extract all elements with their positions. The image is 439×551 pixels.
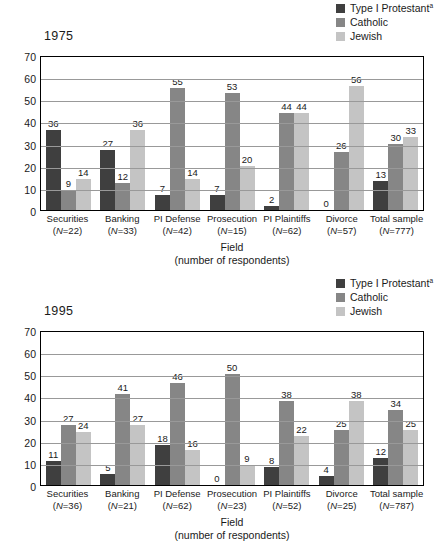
bar-type-i-protestant[interactable] xyxy=(319,476,334,485)
bar-catholic[interactable] xyxy=(170,88,185,210)
plot-area-1975: 3691427123675514753202444402656133033 01… xyxy=(40,56,424,211)
bar-catholic[interactable] xyxy=(61,190,76,210)
x-axis-labels-1975: Securities(N=22)Banking(N=33)PI Defense(… xyxy=(40,213,424,237)
x-axis-category-label: PI Plaintiffs(N=62) xyxy=(259,213,314,237)
y-axis-tick-label: 70 xyxy=(24,51,36,63)
x-axis-category-label: Banking(N=21) xyxy=(95,488,150,512)
legend-item-type-i-protestant[interactable]: Type I Protestanta xyxy=(336,277,433,290)
gridline xyxy=(41,465,423,466)
y-axis-tick-label: 60 xyxy=(24,348,36,360)
legend-item-jewish[interactable]: Jewish xyxy=(336,30,433,43)
legend-item-type-i-protestant[interactable]: Type I Protestanta xyxy=(336,2,433,15)
legend-swatch-protestant xyxy=(336,4,345,13)
bar-jewish[interactable] xyxy=(240,166,255,210)
y-axis-tick-label: 0 xyxy=(30,481,36,493)
bar-type-i-protestant[interactable] xyxy=(46,130,61,210)
x-axis-category-count: (N=62) xyxy=(259,225,314,237)
legend-1975: Type I ProtestantaCatholicJewish xyxy=(336,2,433,43)
bar-jewish[interactable] xyxy=(403,137,418,210)
x-axis-category-name: PI Defense xyxy=(154,488,201,499)
gridline xyxy=(41,376,423,377)
bar-jewish[interactable] xyxy=(76,432,91,485)
x-axis-category-label: Securities(N=22) xyxy=(40,213,95,237)
bar-value-label: 24 xyxy=(78,421,89,431)
bar-jewish[interactable] xyxy=(130,425,145,485)
bar-catholic[interactable] xyxy=(388,144,403,210)
bar-catholic[interactable] xyxy=(225,374,240,485)
legend-swatch-jewish xyxy=(336,32,345,41)
bar-type-i-protestant[interactable] xyxy=(155,195,170,211)
bar-catholic[interactable] xyxy=(334,430,349,485)
bar-value-label: 12 xyxy=(375,447,386,457)
x-axis-title-1975: Field (number of respondents) xyxy=(40,241,424,266)
x-axis-labels-1995: Securities(N=36)Banking(N=21)PI Defense(… xyxy=(40,488,424,512)
bar-jewish[interactable] xyxy=(130,130,145,210)
bar-catholic[interactable] xyxy=(115,183,130,210)
x-axis-title-line1: Field xyxy=(221,241,244,253)
bar-jewish[interactable] xyxy=(240,465,255,485)
bar-value-label: 0 xyxy=(214,474,219,484)
x-axis-category-count: (N=23) xyxy=(205,500,260,512)
y-axis-tick-label: 40 xyxy=(24,392,36,404)
bar-catholic[interactable] xyxy=(61,425,76,485)
bar-type-i-protestant[interactable] xyxy=(100,474,115,485)
bar-catholic[interactable] xyxy=(225,93,240,210)
x-axis-category-label: Divorce(N=25) xyxy=(314,488,369,512)
x-axis-category-label: PI Defense(N=62) xyxy=(150,488,205,512)
legend-label: Type I Protestanta xyxy=(350,277,433,290)
chart-title-1995: 1995 xyxy=(44,304,73,318)
chart-panel-1995: Type I ProtestantaCatholicJewish 1995 11… xyxy=(0,275,439,550)
x-axis-category-count: (N=22) xyxy=(40,225,95,237)
y-axis-tick-label: 0 xyxy=(30,206,36,218)
bar-catholic[interactable] xyxy=(115,394,130,485)
bar-jewish[interactable] xyxy=(403,430,418,485)
legend-item-jewish[interactable]: Jewish xyxy=(336,305,433,318)
bar-value-label: 30 xyxy=(390,133,401,143)
x-axis-category-label: PI Plaintiffs(N=52) xyxy=(259,488,314,512)
bar-catholic[interactable] xyxy=(279,113,294,210)
legend-swatch-protestant xyxy=(336,279,345,288)
bar-type-i-protestant[interactable] xyxy=(210,195,225,211)
x-axis-category-count: (N=777) xyxy=(369,225,424,237)
x-axis-category-name: Prosecution xyxy=(207,488,257,499)
bar-jewish[interactable] xyxy=(185,450,200,485)
legend-1995: Type I ProtestantaCatholicJewish xyxy=(336,277,433,318)
x-axis-category-name: Securities xyxy=(47,213,89,224)
bar-jewish[interactable] xyxy=(76,179,91,210)
bar-jewish[interactable] xyxy=(294,113,309,210)
y-axis-tick-label: 60 xyxy=(24,73,36,85)
bar-catholic[interactable] xyxy=(334,152,349,210)
y-axis-tick-label: 20 xyxy=(24,162,36,174)
x-axis-category-count: (N=52) xyxy=(259,500,314,512)
legend-item-catholic[interactable]: Catholic xyxy=(336,16,433,29)
legend-label: Catholic xyxy=(350,16,388,29)
legend-swatch-jewish xyxy=(336,307,345,316)
x-axis-category-name: PI Plaintiffs xyxy=(263,488,310,499)
bar-jewish[interactable] xyxy=(349,86,364,210)
bar-value-label: 53 xyxy=(227,82,238,92)
legend-label: Jewish xyxy=(350,30,382,43)
gridline xyxy=(41,168,423,169)
bar-jewish[interactable] xyxy=(185,179,200,210)
legend-item-catholic[interactable]: Catholic xyxy=(336,291,433,304)
x-axis-category-label: Banking(N=33) xyxy=(95,213,150,237)
gridline xyxy=(41,398,423,399)
x-axis-category-name: Divorce xyxy=(326,488,358,499)
bar-type-i-protestant[interactable] xyxy=(264,206,279,210)
x-axis-title-line1: Field xyxy=(221,516,244,528)
x-axis-title-1995: Field (number of respondents) xyxy=(40,516,424,541)
x-axis-category-count: (N=21) xyxy=(95,500,150,512)
bar-value-label: 27 xyxy=(63,414,74,424)
bar-type-i-protestant[interactable] xyxy=(264,467,279,485)
bar-value-label: 50 xyxy=(227,363,238,373)
x-axis-category-count: (N=57) xyxy=(314,225,369,237)
bar-type-i-protestant[interactable] xyxy=(373,458,388,485)
bar-type-i-protestant[interactable] xyxy=(373,181,388,210)
bar-type-i-protestant[interactable] xyxy=(100,150,115,210)
x-axis-category-name: Banking xyxy=(105,488,139,499)
bar-value-label: 11 xyxy=(48,450,58,460)
bar-value-label: 34 xyxy=(390,399,401,409)
bar-value-label: 0 xyxy=(324,199,329,209)
gridline xyxy=(41,190,423,191)
bar-value-label: 41 xyxy=(118,383,129,393)
